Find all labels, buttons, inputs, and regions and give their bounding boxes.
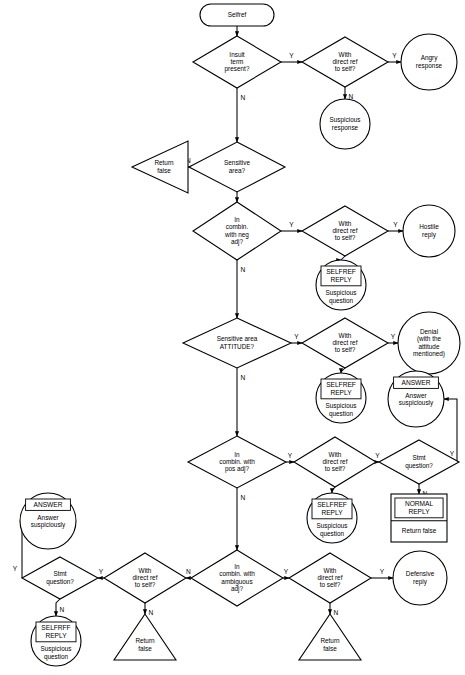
- node-c-selfref2[interactable]: SELFREFREPLYSuspiciousquestion: [316, 373, 366, 423]
- node-d-ref1[interactable]: Withdirect refto self?: [302, 37, 388, 87]
- node-label: SELFREFREPLY: [326, 381, 356, 396]
- node-label: NORMALREPLY: [405, 500, 434, 515]
- node-label: Suspiciousquestion: [41, 645, 72, 660]
- node-d-sens[interactable]: Sensitivearea?: [189, 142, 285, 192]
- node-c-defensive[interactable]: Defensivereply: [393, 551, 447, 605]
- node-d-ref6[interactable]: Withdirect refto self?: [289, 553, 371, 603]
- flowchart-svg: YNYNNYNYYNYNYNYNYNNYYNYNYN SelfrefInsult…: [0, 0, 465, 675]
- edge-label-n: N: [60, 606, 65, 613]
- node-t-rf2[interactable]: Returnfalse: [114, 614, 176, 660]
- node-c-answer-r[interactable]: ANSWERAnswersuspiciously: [388, 371, 444, 427]
- node-t-rf1[interactable]: Returnfalse: [132, 141, 188, 193]
- node-label: ANSWER: [34, 500, 63, 507]
- edge-label-n: N: [349, 93, 354, 100]
- node-d-neg[interactable]: Incombin.with negadj?: [193, 202, 281, 260]
- node-r-normal[interactable]: NORMALREPLYReturn false: [391, 494, 447, 542]
- edge-label-y: Y: [391, 333, 396, 340]
- node-d-ref2[interactable]: Withdirect refto self?: [302, 206, 388, 256]
- edge-label-y: Y: [289, 52, 294, 59]
- edge-label-n: N: [241, 266, 246, 273]
- node-c-selfref1[interactable]: SELFREFREPLYSuspiciousquestion: [316, 260, 366, 310]
- node-label: Selfref: [228, 11, 247, 18]
- node-label: Suspiciousresponse: [330, 116, 361, 131]
- edge-connector: [332, 487, 335, 493]
- node-c-denial[interactable]: Denial(with theattitudementioned): [398, 312, 460, 374]
- node-t-rf3[interactable]: Returnfalse: [299, 614, 361, 660]
- node-d-attitude[interactable]: Sensitive areaATTITUDE?: [183, 318, 291, 368]
- edge-label-n: N: [149, 609, 154, 616]
- node-start[interactable]: Selfref: [200, 4, 274, 26]
- flowchart-canvas: YNYNNYNYYNYNYNYNYNNYYNYNYN SelfrefInsult…: [0, 0, 465, 675]
- node-label: Sensitive areaATTITUDE?: [217, 335, 258, 349]
- node-label: Return false: [402, 526, 437, 533]
- node-d-insult[interactable]: Insulttermpresent?: [193, 36, 281, 88]
- node-c-hostile[interactable]: Hostilereply: [403, 205, 455, 257]
- node-c-selfref3[interactable]: SELFREFREPLYSuspiciousquestion: [307, 493, 357, 543]
- edge-label-n: N: [241, 94, 246, 101]
- edge-label-y: Y: [13, 565, 18, 572]
- edge-label-y: Y: [450, 450, 455, 457]
- edge-label-n: N: [186, 568, 191, 575]
- edge-label-n: N: [241, 374, 246, 381]
- edge-label-y: Y: [99, 568, 104, 575]
- edge-label-y: Y: [284, 568, 289, 575]
- node-label: SELFREFREPLY: [317, 501, 347, 516]
- node-d-stmt-r[interactable]: Stmtquestion?: [379, 440, 459, 484]
- node-c-susp1[interactable]: Suspiciousresponse: [320, 99, 370, 149]
- edge-label-y: Y: [288, 452, 293, 459]
- edge-label-n: N: [334, 609, 339, 616]
- edge-label-y: Y: [289, 221, 294, 228]
- node-c-selfref4[interactable]: SELFRFFREPLYSuspiciousquestion: [31, 616, 81, 666]
- edge-label-n: N: [241, 494, 246, 501]
- edge-label-y: Y: [392, 52, 397, 59]
- node-d-ref3[interactable]: Withdirect refto self?: [302, 318, 388, 368]
- node-d-pos[interactable]: Incombin. withpos adj?: [188, 436, 286, 488]
- edge-label-y: Y: [375, 452, 380, 459]
- node-label: ANSWER: [402, 378, 431, 385]
- node-d-ref5[interactable]: Withdirect refto self?: [104, 553, 186, 603]
- edge-connector: [341, 256, 345, 260]
- edge-label-y: Y: [294, 333, 299, 340]
- edge-label-y: Y: [393, 221, 398, 228]
- edge-label-y: Y: [380, 568, 385, 575]
- node-d-ref4[interactable]: Withdirect refto self?: [294, 437, 376, 487]
- node-label: Suspiciousquestion: [317, 522, 348, 537]
- node-label: Suspiciousquestion: [326, 289, 357, 304]
- node-label: Suspiciousquestion: [326, 402, 357, 417]
- node-d-stmt-l[interactable]: Stmtquestion?: [22, 557, 98, 599]
- node-c-answer-l[interactable]: ANSWERAnswersuspiciously: [20, 493, 76, 549]
- edge-connector: [341, 368, 345, 373]
- node-c-angry[interactable]: Angryresponse: [401, 34, 457, 90]
- node-d-ambig[interactable]: Incombin. withambiguousadj?: [191, 550, 283, 606]
- node-label: SELFRFFREPLY: [41, 624, 70, 639]
- node-label: SELFREFREPLY: [326, 268, 356, 283]
